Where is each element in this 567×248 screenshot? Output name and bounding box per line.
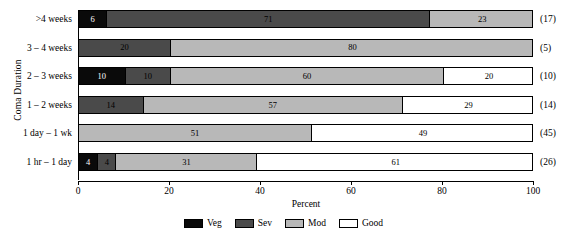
stacked-bar-chart: Coma Duration >4 weeks67123(17)3 – 4 wee… — [0, 0, 567, 248]
bar-segment-value: 60 — [303, 72, 312, 81]
bar-segment-value: 80 — [348, 43, 357, 52]
legend-label: Good — [362, 219, 383, 229]
x-axis-title: Percent — [78, 199, 534, 209]
bar-segment-good: 20 — [443, 68, 533, 84]
bar-segment-value: 23 — [478, 15, 487, 24]
bar-segment-mod: 31 — [115, 154, 256, 170]
legend-label: Mod — [308, 219, 326, 229]
bar-segment-value: 29 — [464, 101, 473, 110]
bar-segment-sev: 4 — [97, 154, 115, 170]
bar-segment-mod: 51 — [79, 125, 311, 141]
bar-segment-value: 51 — [191, 129, 200, 138]
bar-segment-veg: 6 — [79, 11, 106, 27]
bar-segment-sev: 14 — [79, 97, 143, 113]
bar-segment-sev: 20 — [79, 40, 170, 56]
y-axis-tick-label: 1 hr – 1 day — [2, 153, 72, 171]
x-axis-tick — [169, 181, 170, 185]
bar-segment-sev: 71 — [106, 11, 429, 27]
bar-row: 10106020 — [78, 67, 533, 85]
bar-segment-value: 4 — [86, 158, 90, 167]
bar-segment-value: 71 — [264, 15, 273, 24]
legend-item-veg: Veg — [184, 219, 222, 229]
plot-area: >4 weeks67123(17)3 – 4 weeks2080(5)2 – 3… — [78, 10, 533, 175]
row-count-label: (10) — [540, 67, 567, 85]
bar-row: 2080 — [78, 39, 533, 57]
bar-row: 67123 — [78, 10, 533, 28]
x-axis-tick-label: 40 — [240, 186, 280, 196]
row-count-label: (26) — [540, 153, 567, 171]
bar-segment-value: 6 — [91, 15, 95, 24]
legend-item-mod: Mod — [285, 219, 326, 229]
bar-segment-veg: 10 — [79, 68, 125, 84]
legend-swatch-icon — [339, 219, 358, 228]
legend-swatch-icon — [285, 219, 304, 228]
bar-segment-value: 20 — [120, 43, 129, 52]
x-axis-tick-label: 60 — [331, 186, 371, 196]
legend-item-good: Good — [339, 219, 383, 229]
row-count-label: (14) — [540, 96, 567, 114]
bar-segment-value: 31 — [182, 158, 191, 167]
chart-legend: VegSevModGood — [0, 219, 567, 229]
bar-segment-good: 29 — [402, 97, 533, 113]
y-axis-tick-label: 2 – 3 weeks — [2, 67, 72, 85]
bar-segment-mod: 80 — [170, 40, 533, 56]
y-axis-tick-label: >4 weeks — [2, 10, 72, 28]
legend-item-sev: Sev — [235, 219, 272, 229]
bar-segment-value: 10 — [144, 72, 153, 81]
x-axis-tick-label: 80 — [422, 186, 462, 196]
bar-segment-sev: 10 — [125, 68, 171, 84]
legend-swatch-icon — [235, 219, 254, 228]
x-axis-tick — [351, 181, 352, 185]
bar-segment-value: 49 — [419, 129, 428, 138]
bar-segment-good: 61 — [256, 154, 533, 170]
x-axis-tick — [260, 181, 261, 185]
bar-segment-mod: 23 — [429, 11, 533, 27]
bar-row: 145729 — [78, 96, 533, 114]
bar-row: 5149 — [78, 124, 533, 142]
x-axis-tick — [78, 181, 79, 185]
bar-segment-value: 57 — [269, 101, 278, 110]
y-axis-tick-label: 1 day – 1 wk — [2, 124, 72, 142]
legend-label: Sev — [258, 219, 272, 229]
bar-segment-mod: 57 — [143, 97, 402, 113]
bar-segment-value: 61 — [391, 158, 400, 167]
row-count-label: (45) — [540, 124, 567, 142]
bar-row: 443161 — [78, 153, 533, 171]
bar-segment-value: 20 — [485, 72, 494, 81]
bar-segment-good: 49 — [311, 125, 533, 141]
x-axis-tick-label: 0 — [58, 186, 98, 196]
row-count-label: (17) — [540, 10, 567, 28]
legend-label: Veg — [207, 219, 222, 229]
x-axis-line — [78, 181, 534, 182]
x-axis-tick-label: 20 — [149, 186, 189, 196]
bar-segment-veg: 4 — [79, 154, 97, 170]
bar-segment-value: 14 — [107, 101, 116, 110]
y-axis-tick-label: 1 – 2 weeks — [2, 96, 72, 114]
x-axis-tick-label: 100 — [513, 186, 553, 196]
y-axis-tick-label: 3 – 4 weeks — [2, 39, 72, 57]
x-axis-tick — [533, 181, 534, 185]
legend-swatch-icon — [184, 219, 203, 228]
row-count-label: (5) — [540, 39, 567, 57]
bar-segment-value: 10 — [98, 72, 107, 81]
bar-segment-value: 4 — [105, 158, 109, 167]
bar-segment-mod: 60 — [170, 68, 443, 84]
x-axis-tick — [442, 181, 443, 185]
